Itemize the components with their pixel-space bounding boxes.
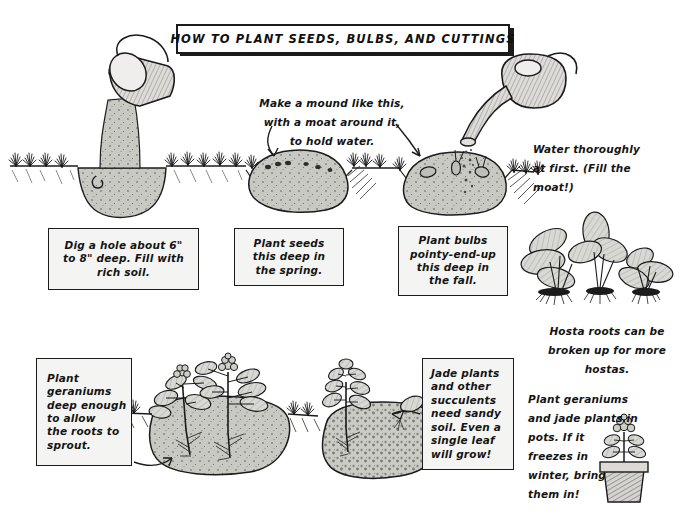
note-pots-in-winter-text: Plant geraniums and jade plants in pots.… [528,393,638,500]
caption-plant-seeds: Plant seeds this deep in the spring. [234,228,344,286]
watering-can-icon [461,53,577,146]
note-water-thoroughly: Water thoroughly at first. (Fill the moa… [533,138,683,195]
note-water-thoroughly-text: Water thoroughly at first. (Fill the moa… [533,143,640,193]
caption-jade-sandy-soil: Jade plants and other succulents need sa… [422,358,514,470]
worm-icon [92,176,102,188]
arrow-geranium [134,458,172,466]
note-make-a-mound: Make a mound like this, with a moat arou… [252,92,412,149]
caption-plant-geraniums-deep-text: Plant geraniums deep enough to allow the… [47,372,126,453]
caption-plant-seeds-text: Plant seeds this deep in the spring. [253,237,325,277]
note-hosta-roots-text: Hosta roots can be broken up for more ho… [548,325,666,375]
bulbs-icon [419,161,490,179]
note-pots-in-winter: Plant geraniums and jade plants in pots.… [528,388,640,502]
caption-dig-hole-text: Dig a hole about 6" to 8" deep. Fill wit… [63,239,184,279]
title-box: HOW TO PLANT SEEDS, BULBS, AND CUTTINGS [176,24,510,54]
poster-title: HOW TO PLANT SEEDS, BULBS, AND CUTTINGS [176,24,514,56]
single-leaf-icon [394,393,426,431]
caption-plant-geraniums-deep: Plant geraniums deep enough to allow the… [36,358,132,466]
water-stream [461,149,474,193]
poster-canvas: HOW TO PLANT SEEDS, BULBS, AND CUTTINGS … [0,0,692,513]
note-make-a-mound-text: Make a mound like this, with a moat arou… [259,97,404,147]
note-hosta-roots: Hosta roots can be broken up for more ho… [528,320,686,377]
caption-dig-hole: Dig a hole about 6" to 8" deep. Fill wit… [48,228,199,290]
hosta-plants-illustration [520,211,675,305]
page-title: HOW TO PLANT SEEDS, BULBS, AND CUTTINGS [170,32,515,46]
caption-jade-sandy-soil-text: Jade plants and other succulents need sa… [431,367,501,461]
caption-plant-bulbs: Plant bulbs pointy-end-up this deep in t… [398,226,508,296]
bucket-icon [102,35,174,106]
arrow-jade [392,411,420,419]
caption-plant-bulbs-text: Plant bulbs pointy-end-up this deep in t… [410,234,496,288]
